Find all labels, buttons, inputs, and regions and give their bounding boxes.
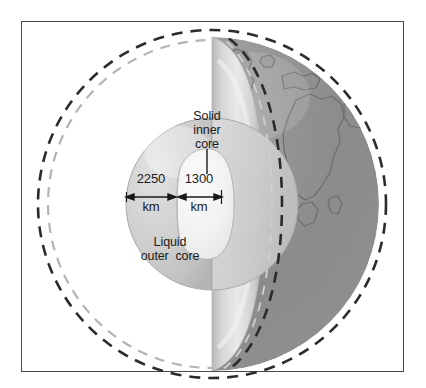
earth-cutaway-illustration [0, 0, 426, 388]
liquid-outer-core-label: Liquid outer core [112, 235, 228, 263]
inner-core-measurement-value: 1300 [172, 172, 226, 187]
earth-interior-figure: Solid inner core Liquid outer core 2250 … [0, 0, 426, 388]
inner-core-measurement-unit: km [172, 200, 226, 215]
solid-inner-core-label: Solid inner core [176, 109, 238, 151]
